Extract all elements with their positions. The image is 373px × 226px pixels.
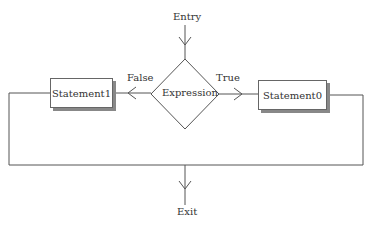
statement0-box: Statement0 bbox=[258, 80, 327, 110]
statement1-box: Statement1 bbox=[50, 78, 113, 108]
flowchart-lines bbox=[0, 0, 373, 226]
exit-label: Exit bbox=[177, 206, 197, 217]
decision-label: Expression bbox=[162, 87, 218, 98]
false-label: False bbox=[127, 72, 153, 83]
entry-label: Entry bbox=[173, 11, 201, 22]
true-label: True bbox=[216, 72, 240, 83]
statement0-label: Statement0 bbox=[263, 90, 322, 101]
statement1-label: Statement1 bbox=[52, 88, 111, 99]
